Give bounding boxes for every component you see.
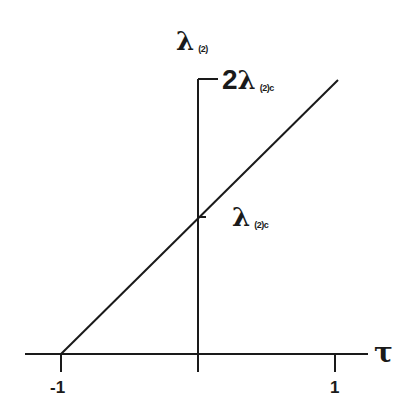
y-tick-label-mid: λ(2)c: [232, 202, 268, 233]
x-axis-label: τ: [374, 336, 393, 369]
x-tick-label-pos1: 1: [330, 378, 339, 398]
data-line: [61, 80, 338, 354]
y-tick-label-top: 2λ(2)c: [222, 64, 274, 96]
y-axis-label: λ(2): [176, 26, 208, 57]
x-tick-label-neg1: -1: [50, 378, 65, 398]
chart-canvas: [0, 0, 415, 417]
